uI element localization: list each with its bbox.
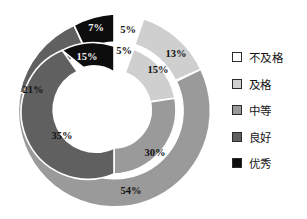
legend-swatch-bujige bbox=[232, 52, 242, 62]
legend-item-bujige[interactable]: 不及格 bbox=[232, 50, 306, 64]
nested-donut-chart: 5% 13% 54% 21% 7% 5% 15% 30% 35% 15% bbox=[0, 0, 228, 219]
outer-label-bujige: 5% bbox=[120, 24, 136, 35]
donut-hole bbox=[76, 72, 152, 148]
legend-item-youxiu[interactable]: 优秀 bbox=[232, 156, 306, 170]
inner-label-zhongdeng: 30% bbox=[145, 147, 166, 158]
legend-label-jige: 及格 bbox=[249, 76, 272, 92]
inner-label-bujige: 5% bbox=[116, 45, 132, 56]
chart-page: 5% 13% 54% 21% 7% 5% 15% 30% 35% 15% 不及格… bbox=[0, 0, 307, 219]
legend-swatch-zhongdeng bbox=[232, 105, 242, 115]
legend-item-zhongdeng[interactable]: 中等 bbox=[232, 103, 306, 117]
inner-label-jige: 15% bbox=[148, 64, 169, 75]
inner-label-youxiu: 15% bbox=[77, 51, 98, 62]
outer-label-lianghao: 21% bbox=[23, 84, 44, 95]
legend-label-bujige: 不及格 bbox=[249, 49, 283, 65]
donut-chart-svg: 5% 13% 54% 21% 7% 5% 15% 30% 35% 15% bbox=[0, 0, 228, 219]
outer-label-zhongdeng: 54% bbox=[121, 185, 142, 196]
chart-legend: 不及格 及格 中等 良好 优秀 bbox=[232, 50, 306, 170]
outer-label-jige: 13% bbox=[166, 48, 187, 59]
legend-label-youxiu: 优秀 bbox=[249, 155, 272, 171]
legend-label-zhongdeng: 中等 bbox=[249, 102, 272, 118]
legend-swatch-jige bbox=[232, 79, 242, 89]
legend-label-lianghao: 良好 bbox=[249, 129, 272, 145]
legend-swatch-youxiu bbox=[232, 158, 242, 168]
outer-label-youxiu: 7% bbox=[88, 22, 104, 33]
inner-label-lianghao: 35% bbox=[52, 130, 73, 141]
legend-swatch-lianghao bbox=[232, 132, 242, 142]
legend-item-jige[interactable]: 及格 bbox=[232, 77, 306, 91]
legend-item-lianghao[interactable]: 良好 bbox=[232, 130, 306, 144]
